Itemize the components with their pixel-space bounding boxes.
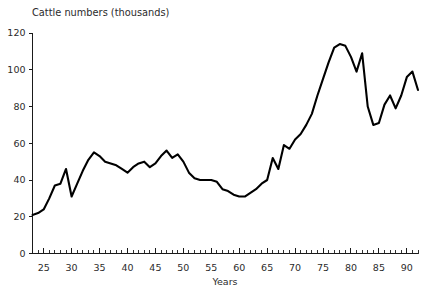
y-tick-label: 120: [7, 27, 25, 38]
cattle-numbers-series-line: [33, 44, 419, 215]
y-tick-label: 20: [13, 211, 25, 222]
x-tick-label: 75: [317, 262, 329, 273]
x-tick-label: 40: [121, 262, 133, 273]
chart-page: Cattle numbers (thousands) 0204060801001…: [0, 0, 428, 296]
x-tick-label: 35: [93, 262, 105, 273]
x-tick-label: 80: [345, 262, 357, 273]
x-axis-title: Years: [211, 276, 237, 287]
x-tick-label: 55: [205, 262, 217, 273]
y-tick-label: 40: [13, 174, 25, 185]
y-tick-label: 80: [13, 101, 25, 112]
y-axis-ticks: 020406080100120: [7, 27, 32, 259]
y-tick-label: 100: [7, 64, 25, 75]
page-title: Cattle numbers (thousands): [32, 7, 169, 18]
x-tick-label: 90: [401, 262, 413, 273]
x-tick-label: 65: [261, 262, 273, 273]
x-tick-label: 30: [66, 262, 78, 273]
y-tick-label: 60: [13, 138, 25, 149]
cattle-numbers-line-chart: Cattle numbers (thousands) 0204060801001…: [0, 0, 428, 296]
x-tick-label: 85: [373, 262, 385, 273]
y-tick-label: 0: [19, 248, 25, 259]
x-tick-label: 45: [149, 262, 161, 273]
x-tick-label: 50: [177, 262, 189, 273]
x-axis-minor-ticks: [33, 250, 419, 254]
x-tick-label: 60: [233, 262, 245, 273]
x-tick-label: 25: [38, 262, 50, 273]
x-tick-label: 70: [289, 262, 301, 273]
